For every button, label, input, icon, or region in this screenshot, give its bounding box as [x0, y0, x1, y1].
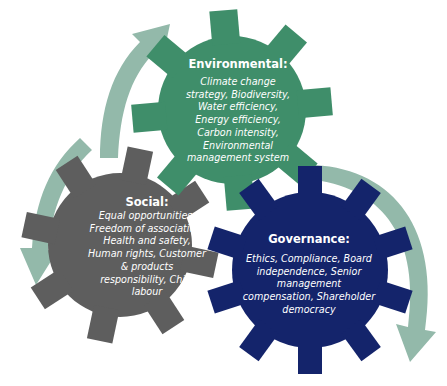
- environmental-items: Climate change strategy, Biodiversity, W…: [160, 76, 316, 165]
- social-line: responsibility, Child: [72, 274, 222, 287]
- governance-items: Ethics, Compliance, Board independence, …: [225, 253, 393, 317]
- environmental-line: Climate change: [160, 76, 316, 89]
- environmental-line: management system: [160, 152, 316, 165]
- social-line: & products: [72, 261, 222, 274]
- social-line: Freedom of association,: [72, 223, 222, 236]
- governance-label: Governance: Ethics, Compliance, Board in…: [225, 232, 393, 317]
- governance-title: Governance:: [225, 232, 393, 246]
- social-items: Equal opportunities, Freedom of associat…: [72, 210, 222, 299]
- governance-line: Ethics, Compliance, Board: [225, 253, 393, 266]
- governance-line: compensation, Shareholder: [225, 291, 393, 304]
- governance-line: democracy: [225, 304, 393, 317]
- environmental-line: Energy efficiency,: [160, 114, 316, 127]
- social-line: Health and safety,: [72, 235, 222, 248]
- governance-line: management: [225, 278, 393, 291]
- social-line: Equal opportunities,: [72, 210, 222, 223]
- environmental-line: Environmental: [160, 140, 316, 153]
- environmental-title: Environmental:: [160, 57, 316, 71]
- environmental-label: Environmental: Climate change strategy, …: [160, 57, 316, 165]
- social-label: Social: Equal opportunities, Freedom of …: [72, 195, 222, 299]
- social-line: labour: [72, 286, 222, 299]
- social-line: Human rights, Customer: [72, 248, 222, 261]
- environmental-line: strategy, Biodiversity,: [160, 89, 316, 102]
- environmental-line: Water efficiency,: [160, 101, 316, 114]
- social-title: Social:: [72, 195, 222, 209]
- environmental-line: Carbon intensity,: [160, 127, 316, 140]
- governance-line: independence, Senior: [225, 266, 393, 279]
